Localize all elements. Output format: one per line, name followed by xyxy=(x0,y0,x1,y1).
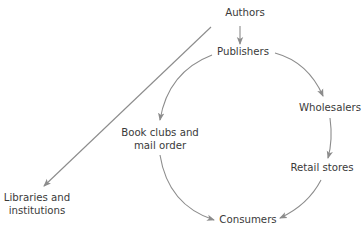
node-publishers-label: Publishers xyxy=(217,46,269,59)
node-authors: Authors xyxy=(225,7,265,20)
edge-bookclubs-consumers xyxy=(160,155,214,220)
node-wholesalers: Wholesalers xyxy=(299,102,361,115)
node-consumers: Consumers xyxy=(219,214,276,227)
node-libraries-line2: institutions xyxy=(4,205,70,218)
node-retail-stores: Retail stores xyxy=(290,162,353,175)
node-libraries: Libraries and institutions xyxy=(4,192,70,217)
edge-publishers-bookclubs xyxy=(160,55,212,120)
node-libraries-line1: Libraries and xyxy=(4,192,70,205)
node-book-clubs-line1: Book clubs and xyxy=(121,127,199,140)
node-authors-label: Authors xyxy=(225,7,265,20)
edge-retail-consumers xyxy=(280,180,321,218)
node-book-clubs-line2: mail order xyxy=(121,140,199,153)
node-wholesalers-label: Wholesalers xyxy=(299,102,361,115)
edge-publishers-wholesalers xyxy=(275,53,323,96)
edge-wholesalers-retail xyxy=(328,118,331,158)
node-retail-stores-label: Retail stores xyxy=(290,162,353,175)
edge-authors-libraries xyxy=(44,27,211,186)
node-book-clubs: Book clubs and mail order xyxy=(121,127,199,152)
node-publishers: Publishers xyxy=(217,46,269,59)
distribution-channel-diagram: Authors Publishers Wholesalers Retail st… xyxy=(0,0,361,236)
node-consumers-label: Consumers xyxy=(219,214,276,227)
